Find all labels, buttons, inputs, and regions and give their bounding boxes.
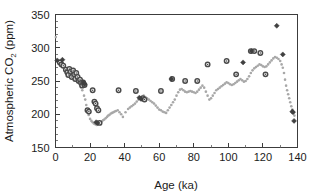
data-point-dot: [270, 59, 273, 62]
data-point-dot: [120, 113, 123, 116]
co2-age-scatter-figure: 020406080100120140150200250300350 Age (k…: [0, 0, 313, 194]
y-tick-label: 250: [31, 75, 49, 87]
data-point-dot: [213, 92, 216, 95]
data-point-dot: [85, 104, 88, 107]
data-point-ringed-circle-core: [184, 80, 185, 81]
data-point-ringed-circle-core: [75, 72, 76, 73]
x-tick-label: 100: [219, 151, 237, 163]
data-point-dot: [165, 112, 168, 115]
x-tick-label: 40: [119, 151, 131, 163]
y-tick-label: 350: [31, 9, 49, 21]
data-point-ringed-circle-core: [88, 111, 89, 112]
y-axis-title-unit: (ppm): [3, 20, 15, 53]
data-point-dot: [175, 94, 178, 97]
data-point-dot: [206, 94, 209, 97]
data-point-dot: [122, 116, 125, 119]
data-point-dot: [135, 100, 138, 103]
x-tick-label: 140: [288, 151, 306, 163]
chart-canvas: 020406080100120140150200250300350 Age (k…: [0, 0, 313, 194]
data-point-dot: [248, 75, 251, 78]
data-point-dot: [177, 91, 180, 94]
data-point-dot: [168, 106, 171, 109]
data-point-ringed-circle-core: [98, 110, 99, 111]
data-point-ringed-circle-core: [144, 99, 145, 100]
data-point-dot: [286, 89, 289, 92]
data-point-dot: [201, 84, 204, 87]
data-point-dot: [196, 90, 199, 93]
data-point-dot: [288, 97, 291, 100]
data-point-dot: [199, 86, 202, 89]
data-point-dot: [172, 101, 175, 104]
figure-background: [0, 0, 313, 194]
data-point-ringed-circle-core: [235, 74, 236, 75]
data-point-dot: [167, 109, 170, 112]
data-point-dot: [153, 102, 156, 105]
data-point-dot: [210, 97, 213, 100]
y-tick-label: 200: [31, 108, 49, 120]
data-point-ringed-circle-core: [160, 90, 161, 91]
data-point-ringed-circle-core: [135, 90, 136, 91]
data-point-ringed-circle-core: [260, 52, 261, 53]
data-point-dot: [116, 109, 119, 112]
data-point-dot: [156, 106, 159, 109]
data-point-dot: [251, 69, 254, 72]
x-tick-label: 0: [52, 151, 58, 163]
y-tick-label: 300: [31, 42, 49, 54]
data-point-dot: [290, 105, 293, 108]
x-tick-label: 120: [254, 151, 272, 163]
y-axis-title-main: Atmospheric CO: [3, 58, 15, 142]
data-point-dot: [154, 104, 157, 107]
data-point-ringed-circle-core: [118, 90, 119, 91]
data-point-dot: [205, 90, 208, 93]
data-point-dot: [267, 63, 270, 66]
data-point-dot: [173, 98, 176, 101]
data-point-dot: [83, 94, 86, 97]
data-point-dot: [280, 63, 283, 66]
data-point-dot: [124, 111, 127, 114]
data-point-dot: [55, 36, 58, 39]
x-tick-label: 60: [153, 151, 165, 163]
data-point-dot: [134, 102, 137, 105]
data-point-ringed-circle-core: [95, 103, 96, 104]
data-point-dot: [279, 60, 282, 63]
data-point-dot: [212, 94, 215, 97]
data-point-dot: [118, 111, 121, 114]
data-point-ringed-circle-core: [226, 60, 227, 61]
data-point-ringed-circle-core: [196, 80, 197, 81]
data-point-ringed-circle-core: [92, 90, 93, 91]
data-point-dot: [250, 72, 253, 75]
data-point-dot: [81, 89, 84, 92]
data-point-dot: [84, 98, 87, 101]
data-point-ringed-circle-core: [63, 65, 64, 66]
data-point-dot: [170, 104, 173, 107]
data-point-ringed-circle-core: [207, 64, 208, 65]
y-tick-label: 150: [31, 142, 49, 154]
data-point-ringed-circle-core: [68, 74, 69, 75]
data-point-dot: [282, 66, 285, 69]
data-point-dot: [287, 93, 290, 96]
data-point-dot: [246, 78, 249, 81]
data-point-dot: [283, 72, 286, 75]
x-tick-label: 80: [188, 151, 200, 163]
data-point-dot: [284, 78, 287, 81]
data-point-dot: [289, 101, 292, 104]
data-point-dot: [293, 114, 296, 117]
x-tick-label: 20: [84, 151, 96, 163]
data-point-dot: [285, 84, 288, 87]
data-point-dot: [198, 88, 201, 91]
data-point-ringed-circle-core: [72, 70, 73, 71]
data-point-dot: [269, 61, 272, 64]
data-point-dot: [277, 58, 280, 61]
data-point-dot: [203, 86, 206, 89]
data-point-dot: [244, 80, 247, 83]
data-point-dot: [265, 65, 268, 68]
data-point-ringed-circle-core: [265, 74, 266, 75]
x-axis-title: Age (ka): [154, 179, 198, 191]
